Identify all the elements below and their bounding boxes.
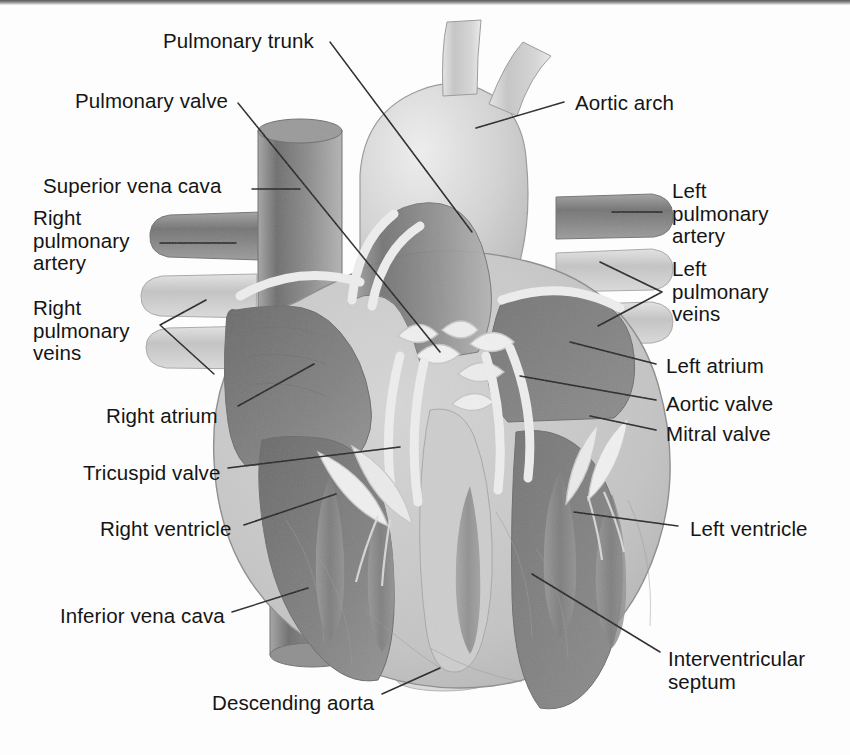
label-right-ventricle: Right ventricle bbox=[100, 518, 231, 541]
label-tricuspid-valve: Tricuspid valve bbox=[83, 462, 220, 485]
superior-vena-cava-cap bbox=[258, 119, 342, 143]
label-right-pulmonary-veins: Right pulmonary veins bbox=[33, 297, 130, 365]
aortic-branch-two-shape bbox=[489, 42, 551, 116]
label-left-ventricle: Left ventricle bbox=[690, 518, 808, 541]
label-aortic-valve: Aortic valve bbox=[666, 393, 773, 416]
label-pulmonary-trunk: Pulmonary trunk bbox=[163, 30, 314, 53]
heart-illustration bbox=[0, 0, 850, 755]
label-left-atrium: Left atrium bbox=[666, 355, 764, 378]
label-mitral-valve: Mitral valve bbox=[666, 423, 771, 446]
label-right-pulmonary-artery: Right pulmonary artery bbox=[33, 207, 130, 275]
label-aortic-arch: Aortic arch bbox=[575, 92, 674, 115]
label-superior-vena-cava: Superior vena cava bbox=[43, 175, 221, 198]
left-pulmonary-artery-shape bbox=[556, 194, 673, 239]
label-left-pulmonary-veins: Left pulmonary veins bbox=[672, 258, 769, 326]
label-pulmonary-valve: Pulmonary valve bbox=[75, 90, 228, 113]
label-interventricular-septum: Interventricular septum bbox=[668, 648, 805, 693]
label-descending-aorta: Descending aorta bbox=[212, 692, 374, 715]
label-inferior-vena-cava: Inferior vena cava bbox=[60, 605, 225, 628]
heart-diagram-figure: Pulmonary trunkPulmonary valveSuperior v… bbox=[0, 0, 850, 755]
label-left-pulmonary-artery: Left pulmonary artery bbox=[672, 180, 769, 248]
aortic-branch-one-shape bbox=[443, 20, 482, 96]
right-pulmonary-artery-shape bbox=[150, 212, 262, 260]
label-right-atrium: Right atrium bbox=[106, 405, 218, 428]
